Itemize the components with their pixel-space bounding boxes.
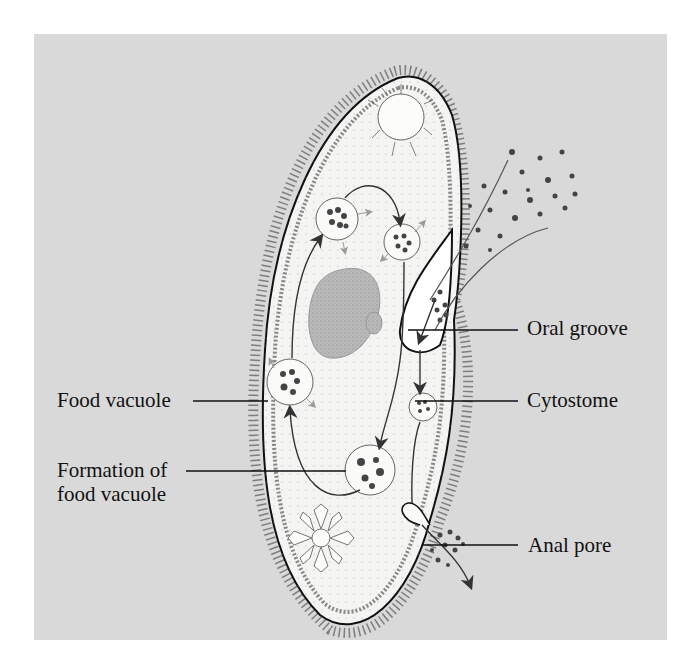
label-oral-groove: Oral groove [527, 316, 628, 340]
food-vacuole-4 [345, 445, 395, 495]
food-vacuole-2 [384, 224, 420, 260]
label-formation-of-food-vacuole: Formation of food vacuole [57, 458, 167, 506]
label-formation-line2: food vacuole [57, 482, 167, 506]
food-vacuole-1 [316, 198, 358, 240]
food-particles-incoming [464, 149, 578, 252]
label-anal-pore: Anal pore [528, 533, 611, 557]
label-cytostome: Cytostome [527, 388, 618, 412]
label-formation-line1: Formation of [57, 458, 167, 482]
label-food-vacuole: Food vacuole [57, 388, 171, 412]
food-vacuole-5 [409, 393, 437, 421]
micronucleus [366, 312, 382, 334]
